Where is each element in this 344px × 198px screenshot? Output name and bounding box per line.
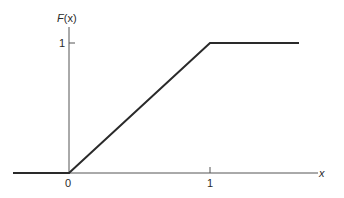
x-tick-label-1: 1: [207, 177, 213, 189]
x-axis-label: x: [318, 167, 325, 179]
y-axis-label: F(x): [57, 12, 77, 24]
y-tick-label-1: 1: [59, 37, 65, 49]
cdf-chart: F(x) 1 0 1 x: [0, 0, 344, 198]
cdf-curve: [13, 43, 299, 173]
x-tick-label-0: 0: [65, 177, 71, 189]
